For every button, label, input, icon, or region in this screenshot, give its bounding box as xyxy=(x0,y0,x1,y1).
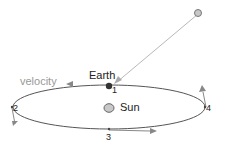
sun-circle xyxy=(104,104,114,113)
velocity-label: velocity xyxy=(20,76,57,87)
distant-body xyxy=(195,10,202,17)
point-2-label: 2 xyxy=(13,104,18,113)
velocity-arrow-right xyxy=(199,85,206,92)
velocity-line-bottom xyxy=(109,130,150,131)
velocity-arrow-top xyxy=(66,81,73,87)
earth-label: Earth xyxy=(89,70,115,81)
pull-line xyxy=(117,14,198,82)
point-3-label: 3 xyxy=(106,133,111,142)
velocity-arrow-left xyxy=(12,121,18,126)
velocity-arrow-bottom xyxy=(150,128,157,134)
point-4-label: 4 xyxy=(206,104,211,113)
point-1-label: 1 xyxy=(112,86,117,95)
sun-label: Sun xyxy=(120,102,140,113)
point-3-marker xyxy=(108,128,110,130)
